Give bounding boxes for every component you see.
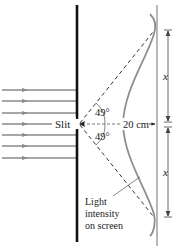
angle-top-label: 49° <box>95 107 110 118</box>
x-bottom-label: x <box>162 166 168 178</box>
distance-label: 20 cm <box>123 119 149 130</box>
intensity-leader <box>113 177 140 196</box>
intensity-label-line3: on screen <box>85 220 123 231</box>
slit-label: Slit <box>55 118 70 130</box>
angle-bottom-label: 49° <box>95 131 110 142</box>
ray-arrowheads <box>22 88 28 160</box>
single-slit-diagram: Slit 49° 49° 20 cm x x Light intensity o… <box>0 0 175 249</box>
intensity-label-line2: intensity <box>85 208 119 219</box>
x-top-label: x <box>162 70 168 82</box>
intensity-label-line1: Light <box>85 196 107 207</box>
